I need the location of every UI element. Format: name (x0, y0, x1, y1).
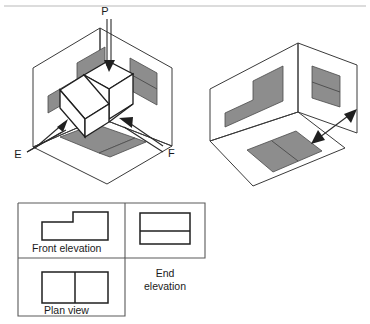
end-elevation-shape (140, 213, 190, 244)
ortho-panel: Front elevation End elevation Plan view (18, 203, 205, 316)
arrow-e-head (57, 119, 68, 132)
front-elevation-label: Front elevation (32, 242, 102, 254)
label-p: P (101, 5, 108, 17)
diagram-canvas: P E F (0, 0, 370, 324)
right-shadow-plan-view (247, 131, 322, 172)
plan-view-label: Plan view (44, 304, 89, 316)
right-diagram (210, 43, 357, 186)
right-shadow-front-elevation (225, 66, 283, 127)
front-elevation-shape (42, 212, 108, 240)
label-e: E (14, 148, 21, 160)
right-shadow-end-elevation (312, 66, 340, 107)
unfold-arrow-head-lower (311, 130, 325, 144)
figure-root: P E F (0, 0, 370, 324)
left-diagram: P E F (14, 5, 175, 184)
end-elevation-label-line2: elevation (144, 280, 186, 292)
end-elevation-label-line1: End (156, 267, 175, 279)
unfold-arrow-head-upper (344, 109, 357, 123)
label-f: F (168, 147, 175, 159)
